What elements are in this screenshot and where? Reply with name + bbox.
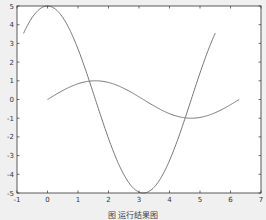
x-tick-label: 6 <box>228 196 233 204</box>
y-tick-label: 0 <box>10 96 14 104</box>
y-tick-label: -5 <box>7 190 14 198</box>
y-tick-label: 5 <box>10 3 14 11</box>
x-tick-label: 4 <box>167 196 172 204</box>
x-tick-label: -1 <box>14 196 21 204</box>
figure: -101234567 -5-4-3-2-1012345 图 运行结果图 <box>0 0 266 220</box>
plot-area <box>17 6 261 193</box>
x-tick-label: 0 <box>45 196 49 204</box>
x-tick-label: 3 <box>137 196 141 204</box>
x-tick-label: 5 <box>198 196 202 204</box>
figure-caption: 图 运行结果图 <box>108 210 159 220</box>
x-tick-label: 1 <box>76 196 80 204</box>
y-tick-label: -3 <box>7 152 14 160</box>
y-tick-label: -4 <box>7 171 15 179</box>
x-tick-label: 7 <box>259 196 263 204</box>
y-tick-label: 2 <box>10 59 14 67</box>
y-tick-label: 4 <box>10 21 15 29</box>
y-tick-label: 3 <box>10 40 14 48</box>
y-tick-label: 1 <box>10 77 14 85</box>
y-tick-label: -1 <box>7 115 14 123</box>
y-tick-label: -2 <box>7 133 14 141</box>
x-tick-label: 2 <box>106 196 110 204</box>
